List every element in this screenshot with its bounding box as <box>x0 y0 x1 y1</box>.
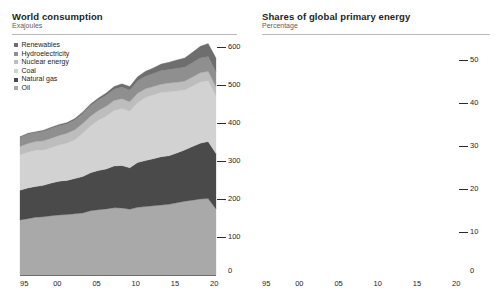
right-y-label-30: 30 <box>470 141 478 150</box>
left-x-label-05: 05 <box>92 279 100 288</box>
left-panel-title: World consumption <box>12 11 103 22</box>
left-x-label-20: 20 <box>210 279 218 288</box>
right-y-tick-40 <box>459 103 468 104</box>
left-y-tick-600 <box>217 47 226 48</box>
right-y-tick-30 <box>459 146 468 147</box>
right-y-tick-50 <box>459 60 468 61</box>
panel-world-consumption: World consumption Exajoules RenewablesHy… <box>0 0 250 298</box>
panel-energy-shares: Shares of global primary energy Percenta… <box>250 0 500 298</box>
left-x-axis-line <box>20 275 216 276</box>
right-y-label-40: 40 <box>470 98 478 107</box>
right-x-label-15: 15 <box>413 279 421 288</box>
left-y-label-600: 600 <box>228 42 241 51</box>
left-x-label-95: 95 <box>20 279 28 288</box>
left-y-label-100: 100 <box>228 232 241 241</box>
right-y-label-10: 10 <box>470 227 478 236</box>
left-y-tick-200 <box>217 199 226 200</box>
legend-swatch-icon <box>14 69 18 73</box>
energy-charts-figure: World consumption Exajoules RenewablesHy… <box>0 0 500 298</box>
left-y-label-400: 400 <box>228 118 241 127</box>
right-y-label-20: 20 <box>470 184 478 193</box>
right-x-label-95: 95 <box>262 279 270 288</box>
left-x-label-00: 00 <box>53 279 61 288</box>
legend-swatch-icon <box>14 78 18 82</box>
left-y-label-200: 200 <box>228 194 241 203</box>
left-y-label-300: 300 <box>228 156 241 165</box>
world-consumption-plot <box>20 47 216 275</box>
right-y-tick-20 <box>459 189 468 190</box>
left-y-tick-300 <box>217 161 226 162</box>
left-y-label-500: 500 <box>228 80 241 89</box>
right-panel-subtitle: Percentage <box>262 22 298 29</box>
left-panel-subtitle: Exajoules <box>12 22 42 29</box>
legend-swatch-icon <box>14 60 18 64</box>
right-x-label-10: 10 <box>374 279 382 288</box>
legend-swatch-icon <box>14 86 18 90</box>
right-y-tick-10 <box>459 232 468 233</box>
left-x-label-15: 15 <box>171 279 179 288</box>
right-x-label-20: 20 <box>452 279 460 288</box>
left-panel-rule <box>12 34 237 35</box>
left-y-label-0: 0 <box>228 266 232 275</box>
right-x-label-05: 05 <box>334 279 342 288</box>
right-y-label-50: 50 <box>470 55 478 64</box>
left-x-label-10: 10 <box>132 279 140 288</box>
left-y-tick-100 <box>217 237 226 238</box>
legend-swatch-icon <box>14 43 18 47</box>
right-panel-title: Shares of global primary energy <box>262 11 410 22</box>
right-x-label-00: 00 <box>295 279 303 288</box>
left-y-tick-500 <box>217 85 226 86</box>
left-y-tick-400 <box>217 123 226 124</box>
right-y-label-0: 0 <box>470 266 474 275</box>
right-panel-rule <box>262 34 490 35</box>
legend-swatch-icon <box>14 52 18 56</box>
